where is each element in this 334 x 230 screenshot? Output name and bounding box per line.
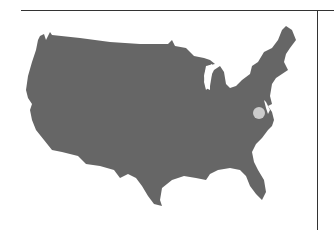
us-map	[0, 0, 334, 230]
location-marker[interactable]	[253, 107, 265, 119]
